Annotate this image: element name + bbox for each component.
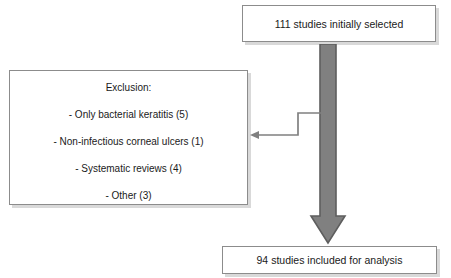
exclusion-item-other: - Other (3) bbox=[10, 191, 247, 201]
top-box-label: 111 studies initially selected bbox=[275, 18, 404, 30]
exclusion-item-non-infectious-corneal-ulcers: - Non-infectious corneal ulcers (1) bbox=[10, 137, 247, 147]
bottom-box-label: 94 studies included for analysis bbox=[257, 254, 403, 266]
exclusion-heading: Exclusion: bbox=[10, 83, 247, 93]
bottom-box: 94 studies included for analysis bbox=[222, 246, 437, 274]
exclusion-item-bacterial-keratitis: - Only bacterial keratitis (5) bbox=[10, 110, 247, 120]
flowchart-canvas: 111 studies initially selected Exclusion… bbox=[0, 0, 451, 278]
top-box: 111 studies initially selected bbox=[242, 5, 436, 42]
exclusion-item-systematic-reviews: - Systematic reviews (4) bbox=[10, 164, 247, 174]
exclusion-branch-arrow-icon bbox=[248, 106, 328, 146]
exclusion-box: Exclusion: - Only bacterial keratitis (5… bbox=[9, 70, 248, 205]
